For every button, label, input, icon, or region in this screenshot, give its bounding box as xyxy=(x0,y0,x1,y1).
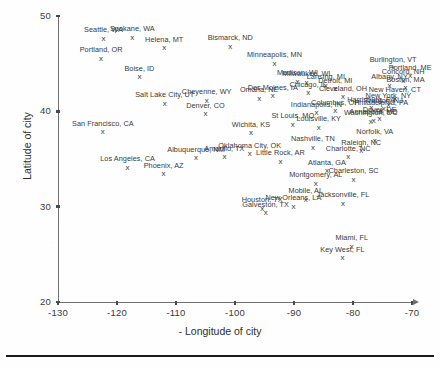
data-point-marker: x xyxy=(257,95,261,103)
data-point-label: Helena, MT xyxy=(145,36,183,44)
x-tick-label: -70 xyxy=(392,307,432,318)
data-point-label: Montgomery, AL xyxy=(289,171,342,179)
x-tick-label: -110 xyxy=(156,307,196,318)
data-point-marker: x xyxy=(162,44,166,52)
data-point-label: Spokane, WA xyxy=(110,25,155,33)
data-point-label: Key West, FL xyxy=(320,246,364,254)
data-point-label: Jacksonville, FL xyxy=(317,191,370,199)
data-point-label: Wichita, KS xyxy=(232,121,270,129)
data-point-label: Bismarck, ND xyxy=(208,34,253,42)
data-point-label: Little Rock, AR xyxy=(256,149,305,157)
data-point-label: Boston, MA xyxy=(386,76,424,84)
data-point-marker: x xyxy=(130,34,134,42)
y-tick-label: 50 xyxy=(25,10,51,21)
x-tick-mark xyxy=(234,301,237,305)
x-tick-mark xyxy=(116,301,119,305)
data-point-marker: x xyxy=(372,117,376,125)
data-point-marker: x xyxy=(101,128,105,136)
data-point-label: Phoenix, AZ xyxy=(144,162,184,170)
data-point-marker: x xyxy=(248,150,252,158)
data-point-label: Galveston, TX xyxy=(242,201,289,209)
data-point-label: Cheyenne, WY xyxy=(182,88,232,96)
data-point-marker: x xyxy=(341,200,345,208)
x-tick-mark xyxy=(57,301,60,305)
data-point-marker: x xyxy=(264,209,268,217)
y-tick-label: 20 xyxy=(25,296,51,307)
data-point-label: Annapolis, MD xyxy=(350,108,398,116)
x-tick-label: -120 xyxy=(97,307,137,318)
data-point-label: Trenton, NJ xyxy=(364,97,402,105)
y-tick-mark xyxy=(56,205,60,208)
data-point-label: Boise, ID xyxy=(124,65,154,73)
scatter-plot-figure: 20304050 -130-120-110-100-90-80-70 Seatt… xyxy=(0,0,440,368)
data-point-marker: x xyxy=(222,153,226,161)
y-tick-mark xyxy=(56,15,60,18)
data-point-marker: x xyxy=(194,154,198,162)
data-point-marker: x xyxy=(271,92,275,100)
data-point-label: Des Moines, IA xyxy=(248,84,298,92)
data-point-label: Louisville, KY xyxy=(297,115,342,123)
data-point-label: Minneapolis, MN xyxy=(247,51,302,59)
data-point-label: San Francisco, CA xyxy=(72,120,134,128)
x-tick-mark xyxy=(293,301,296,305)
data-point-marker: x xyxy=(306,89,310,97)
data-point-marker: x xyxy=(228,43,232,51)
data-point-marker: x xyxy=(137,73,141,81)
data-point-marker: x xyxy=(126,164,130,172)
data-point-marker: x xyxy=(333,107,337,115)
x-axis-title: - Longitude of city xyxy=(0,325,440,337)
data-point-marker: x xyxy=(163,100,167,108)
x-tick-mark xyxy=(175,301,178,305)
data-point-marker: x xyxy=(249,129,253,137)
y-tick-mark xyxy=(56,110,60,113)
x-tick-label: -90 xyxy=(274,307,314,318)
data-point-marker: x xyxy=(278,158,282,166)
data-point-marker: x xyxy=(340,254,344,262)
page-divider-rule xyxy=(6,355,434,357)
data-point-label: Norfolk, VA xyxy=(356,128,393,136)
x-tick-label: -80 xyxy=(333,307,373,318)
data-point-marker: x xyxy=(204,110,208,118)
data-point-marker: x xyxy=(162,170,166,178)
data-point-label: Atlanta, GA xyxy=(308,159,346,167)
data-point-marker: x xyxy=(352,176,356,184)
x-tick-label: -130 xyxy=(38,307,78,318)
data-point-label: Portland, OR xyxy=(80,46,123,54)
data-point-marker: x xyxy=(273,60,277,68)
x-tick-mark xyxy=(411,301,414,305)
y-axis-line xyxy=(58,16,59,303)
x-axis-arrow xyxy=(413,299,419,305)
data-point-marker: x xyxy=(101,35,105,43)
data-point-label: Denver, CO xyxy=(186,102,225,110)
data-point-marker: x xyxy=(99,55,103,63)
data-point-marker: x xyxy=(291,203,295,211)
data-point-label: Cleveland, OH xyxy=(319,85,367,93)
x-tick-label: -100 xyxy=(215,307,255,318)
data-point-label: Miami, FL xyxy=(336,234,368,242)
data-point-marker: x xyxy=(346,153,350,161)
data-point-label: Charlotte, NC xyxy=(326,145,371,153)
x-axis-line xyxy=(58,302,415,303)
y-axis-title: Latitude of city xyxy=(21,76,33,216)
data-point-marker: x xyxy=(317,124,321,132)
x-tick-mark xyxy=(352,301,355,305)
data-point-marker: x xyxy=(311,144,315,152)
data-point-marker: x xyxy=(291,121,295,129)
data-point-label: Nashville, TN xyxy=(291,135,335,143)
